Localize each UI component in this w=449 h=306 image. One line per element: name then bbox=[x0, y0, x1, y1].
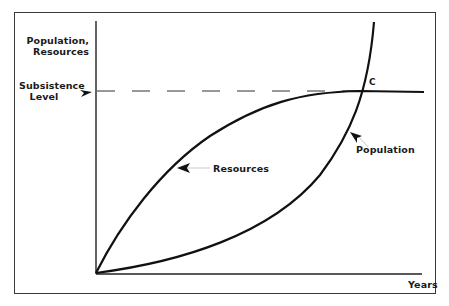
y-axis-label-line2: Resources bbox=[22, 46, 89, 57]
subsistence-level-label: Subsistence Level bbox=[19, 80, 83, 102]
population-curve bbox=[96, 22, 374, 273]
x-axis-label: Years bbox=[408, 279, 438, 290]
subsistence-label-line1: Subsistence bbox=[19, 80, 83, 91]
subsistence-label-line2: Level bbox=[19, 91, 83, 102]
intersection-label: C bbox=[369, 77, 376, 88]
y-axis-label-line1: Population, bbox=[22, 35, 89, 46]
resources-curve bbox=[96, 91, 424, 273]
resources-label: Resources bbox=[213, 163, 269, 174]
population-label: Population bbox=[356, 144, 415, 155]
population-arrow-icon bbox=[350, 132, 362, 143]
y-axis-label: Population, Resources bbox=[22, 35, 89, 57]
